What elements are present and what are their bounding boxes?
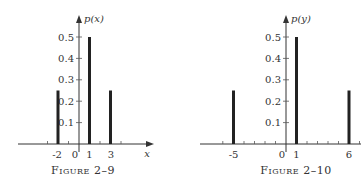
x-axis-label: x <box>144 148 150 159</box>
ytick-label: 0.3 <box>58 74 74 85</box>
figure-caption: Figure 2–10 <box>260 164 331 177</box>
ytick-label: 0.1 <box>58 117 74 128</box>
y-axis-arrow-icon <box>283 15 289 23</box>
xtick-label: 6 <box>346 149 352 160</box>
xtick-label: 1 <box>293 149 299 160</box>
xtick-label: 3 <box>108 149 114 160</box>
ytick-label: 0.5 <box>58 32 74 43</box>
figures-canvas: 0.5 0.4 0.3 0.2 0.1 -2 0 1 3 p(x) x Figu… <box>0 0 361 182</box>
ytick-label: 0.4 <box>265 53 281 64</box>
bar-x-1 <box>88 37 91 144</box>
ytick-label: 0.5 <box>265 32 281 43</box>
ytick-label: 0.2 <box>58 96 74 107</box>
bar-x-3 <box>109 91 112 145</box>
x-axis-arrow-icon <box>146 141 154 147</box>
bar-y-minus-5 <box>232 91 235 145</box>
ytick-label: 0.4 <box>58 53 74 64</box>
y-axis-arrow-icon <box>76 15 82 23</box>
bar-y-1 <box>295 37 298 144</box>
xtick-label: 0 <box>279 149 285 160</box>
ytick-label: 0.3 <box>265 74 281 85</box>
xtick-label: 0 <box>72 149 78 160</box>
bar-x-minus-2 <box>57 91 60 145</box>
xtick-label: 1 <box>86 149 92 160</box>
bar-y-6 <box>348 91 351 145</box>
y-axis-label: p(y) <box>291 13 311 24</box>
figure-caption: Figure 2–9 <box>51 164 115 177</box>
ytick-label: 0.1 <box>265 117 281 128</box>
y-axis-label: p(x) <box>84 13 104 24</box>
ytick-label: 0.2 <box>265 96 281 107</box>
xtick-label: -2 <box>52 149 62 160</box>
figure-2-9: 0.5 0.4 0.3 0.2 0.1 -2 0 1 3 p(x) x Figu… <box>18 13 154 177</box>
figure-2-10: 0.5 0.4 0.3 0.2 0.1 -5 0 1 6 p(y) Figure… <box>200 13 361 177</box>
xtick-label: -5 <box>229 149 239 160</box>
